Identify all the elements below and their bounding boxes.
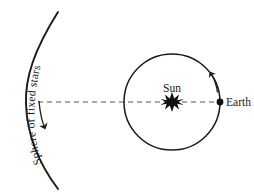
heliocentric-diagram: Sphere of fixed stars Sun Earth <box>0 0 254 196</box>
earth-dot <box>217 99 224 106</box>
earth-label: Earth <box>226 96 251 108</box>
diagram-background <box>0 0 254 196</box>
sun-label: Sun <box>163 82 181 94</box>
